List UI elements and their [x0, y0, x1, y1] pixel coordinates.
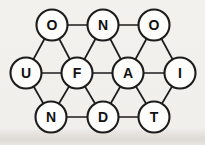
- letter-label-a: A: [123, 65, 133, 81]
- letter-node-n1: N: [88, 10, 119, 41]
- letter-label-o2: O: [149, 17, 160, 33]
- letter-node-o2: O: [139, 10, 170, 41]
- letter-label-t: T: [150, 109, 159, 125]
- letter-node-a: A: [113, 58, 144, 89]
- puzzle-canvas: ONOUFAINDT: [0, 0, 205, 145]
- letter-label-o1: O: [47, 17, 58, 33]
- letter-network-diagram: ONOUFAINDT: [0, 0, 205, 145]
- letter-node-n2: N: [36, 102, 67, 133]
- letter-node-f: F: [62, 58, 93, 89]
- letter-label-f: F: [73, 65, 82, 81]
- letter-node-t: T: [139, 102, 170, 133]
- letter-node-d: D: [88, 102, 119, 133]
- letter-label-u: U: [21, 65, 31, 81]
- letter-label-n2: N: [46, 109, 56, 125]
- letter-node-u: U: [11, 58, 42, 89]
- letter-label-d: D: [98, 109, 108, 125]
- letter-node-o1: O: [37, 10, 68, 41]
- letter-label-n1: N: [98, 17, 108, 33]
- letter-label-i: I: [178, 65, 182, 81]
- nodes-layer: ONOUFAINDT: [11, 10, 196, 133]
- letter-node-i: I: [165, 58, 196, 89]
